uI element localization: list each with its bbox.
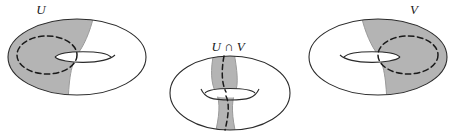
torus-figure: U U ∩ V bbox=[0, 0, 456, 136]
torus-hole-upper-arc-mid bbox=[205, 89, 255, 94]
torus-panel-u: U bbox=[8, 2, 146, 105]
torus-panel-u-cap-v: U ∩ V bbox=[170, 39, 290, 134]
shaded-region-u-cap-v bbox=[212, 52, 238, 134]
label-u: U bbox=[36, 2, 47, 17]
label-u-cap-v: U ∩ V bbox=[211, 39, 246, 54]
torus-diagram-canvas: U U ∩ V bbox=[0, 0, 456, 136]
shaded-region-u bbox=[8, 10, 95, 105]
torus-panel-v: V bbox=[309, 2, 447, 105]
shaded-region-v bbox=[360, 10, 447, 105]
label-v: V bbox=[410, 2, 420, 17]
